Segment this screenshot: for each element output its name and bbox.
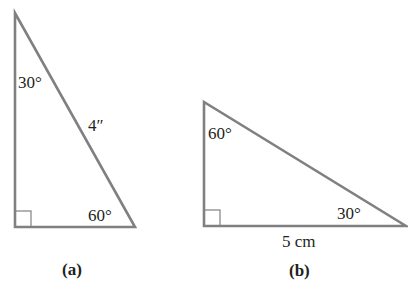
caption-a: (a)	[62, 260, 82, 279]
triangle-a-top-angle: 30°	[18, 73, 42, 92]
triangle-b: 60° 30° 5 cm (b)	[204, 102, 406, 280]
triangle-a-outline	[15, 13, 135, 227]
caption-b: (b)	[289, 261, 310, 280]
triangle-b-base-label: 5 cm	[282, 232, 316, 251]
triangle-a-hypotenuse-label: 4″	[88, 116, 104, 135]
triangle-b-outline	[204, 102, 406, 226]
triangles-diagram: 30° 4″ 60° (a) 60° 30° 5 cm (b)	[0, 0, 408, 293]
triangle-a-bottom-angle: 60°	[88, 206, 112, 225]
right-angle-marker-a	[15, 211, 31, 227]
triangle-b-top-angle: 60°	[208, 124, 232, 143]
triangle-b-bottom-angle: 30°	[337, 204, 361, 223]
triangle-a: 30° 4″ 60° (a)	[15, 13, 135, 279]
right-angle-marker-b	[204, 210, 220, 226]
